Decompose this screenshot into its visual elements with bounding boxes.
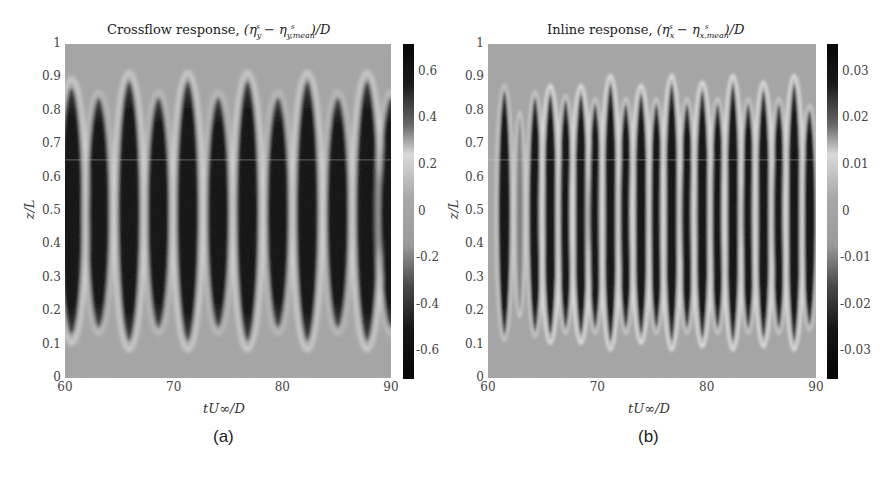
x-tick-label: 60 xyxy=(50,380,80,394)
y-axis-label-b: z/L xyxy=(446,200,461,220)
colorbar-tick-label: -0.03 xyxy=(840,343,871,357)
x-tick-label: 80 xyxy=(692,380,722,394)
colorbar-tick-label: -0.02 xyxy=(840,297,871,311)
x-tick-label: 90 xyxy=(801,380,831,394)
y-tick-label: 0.1 xyxy=(33,337,61,351)
colorbar-b xyxy=(827,44,838,379)
x-tick-label: 80 xyxy=(267,380,297,394)
colorbar-tick-label: -0.6 xyxy=(416,343,439,357)
y-tick-label: 0.1 xyxy=(456,337,484,351)
colorbar-tick-label: -0.2 xyxy=(416,250,439,264)
y-tick-label: 0.2 xyxy=(456,303,484,317)
x-axis-label-b: tU∞/D xyxy=(628,401,670,416)
x-tick-label: 70 xyxy=(159,380,189,394)
colorbar-tick-label: 0.03 xyxy=(842,64,869,78)
colorbar-a xyxy=(403,44,414,379)
title-text-b: Inline response, xyxy=(547,22,653,37)
y-tick-label: 0.7 xyxy=(33,136,61,150)
y-tick-label: 0.3 xyxy=(33,270,61,284)
x-tick-label: 90 xyxy=(376,380,406,394)
caption-a: (a) xyxy=(213,427,234,447)
colorbar-tick-label: 0.01 xyxy=(842,157,869,171)
colorbar-tick-label: -0.01 xyxy=(840,250,871,264)
colorbar-tick-label: 0 xyxy=(418,204,426,218)
caption-b: (b) xyxy=(638,427,659,447)
colorbar-tick-label: 0.02 xyxy=(842,110,869,124)
y-tick-label: 0.3 xyxy=(456,270,484,284)
y-tick-label: 0.9 xyxy=(33,69,61,83)
y-tick-label: 0.8 xyxy=(33,103,61,117)
heatmap-b xyxy=(488,44,816,378)
colorbar-tick-label: 0.2 xyxy=(418,157,437,171)
y-tick-label: 0.6 xyxy=(33,170,61,184)
y-tick-label: 0.6 xyxy=(456,170,484,184)
y-tick-label: 0.4 xyxy=(33,236,61,250)
y-tick-label: 0.4 xyxy=(456,236,484,250)
chart-title-b: Inline response, (ηxs − ηx,means)/D xyxy=(547,22,744,40)
y-tick-label: 0.9 xyxy=(456,69,484,83)
y-tick-label: 1 xyxy=(33,36,61,50)
chart-title-a: Crossflow response, (ηys − ηy,means)/D xyxy=(107,22,331,40)
heatmap-a xyxy=(65,44,391,378)
x-tick-label: 60 xyxy=(473,380,503,394)
colorbar-tick-label: 0.4 xyxy=(418,110,437,124)
x-axis-label-a: tU∞/D xyxy=(203,401,245,416)
y-tick-label: 0.8 xyxy=(456,103,484,117)
x-tick-label: 70 xyxy=(582,380,612,394)
y-tick-label: 0.2 xyxy=(33,303,61,317)
colorbar-tick-label: -0.4 xyxy=(416,297,439,311)
colorbar-tick-label: 0.6 xyxy=(418,64,437,78)
y-tick-label: 0.7 xyxy=(456,136,484,150)
colorbar-tick-label: 0 xyxy=(842,204,850,218)
y-axis-label-a: z/L xyxy=(22,200,37,220)
title-text-a: Crossflow response, xyxy=(107,22,240,37)
y-tick-label: 1 xyxy=(456,36,484,50)
